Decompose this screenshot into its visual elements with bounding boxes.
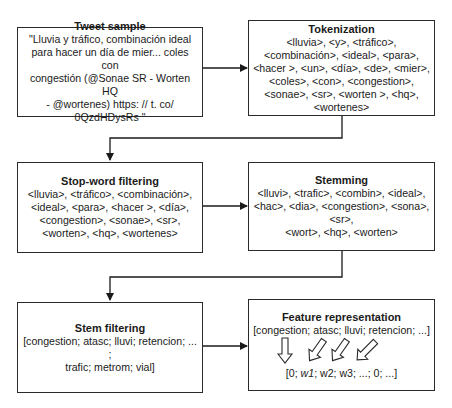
mapping-arrows (277, 337, 407, 365)
stem-filtering-box: Stem filtering [congestion; atasc; lluvi… (17, 302, 203, 393)
stemming-tokens: <lluvi>, <trafic>, <combin>, <ideal>, <h… (254, 187, 430, 239)
feature-representation-box: Feature representation [congestion; atas… (248, 299, 435, 391)
feature-terms: [congestion; atasc; lluvi; retencion; ..… (253, 324, 430, 337)
tweet-sample-text: "Lluvia y tráfico, combinación ideal par… (22, 33, 198, 124)
vector-suffix: ; w2; w3; ...; 0; ...] (314, 367, 397, 379)
feature-representation-title: Feature representation (282, 311, 401, 324)
diagonal-arrow-icon (303, 337, 329, 365)
vector-prefix: [0; (286, 367, 301, 379)
diagonal-arrow-icon (352, 337, 380, 365)
stopword-filtering-title: Stop-word filtering (61, 175, 159, 188)
stem-filtering-title: Stem filtering (75, 322, 145, 335)
feature-vector: [0; w1; w2; w3; ...; 0; ...] (286, 367, 397, 380)
vector-w1: w1 (301, 367, 315, 379)
tokenization-tokens: <lluvia>, <y>, <tráfico>, <combinación>,… (253, 36, 430, 114)
stopword-filtering-tokens: <lluvia>, <tráfico>, <combinación>, <ide… (28, 188, 192, 240)
tweet-sample-title: Tweet sample (74, 20, 145, 33)
tokenization-box: Tokenization <lluvia>, <y>, <tráfico>, <… (248, 20, 435, 116)
stopword-filtering-box: Stop-word filtering <lluvia>, <tráfico>,… (17, 162, 203, 253)
tokenization-title: Tokenization (308, 23, 374, 36)
tweet-sample-box: Tweet sample "Lluvia y tráfico, combinac… (17, 27, 203, 117)
down-arrow-icon (278, 338, 292, 363)
stemming-box: Stemming <lluvi>, <trafic>, <combin>, <i… (248, 162, 435, 251)
stem-filtering-stems: [congestion; atasc; lluvi; retencion; ..… (22, 335, 198, 374)
arrow-stemming-to-stemfilter (110, 250, 342, 300)
diagonal-arrow-icon (326, 337, 352, 365)
stemming-title: Stemming (315, 174, 368, 187)
